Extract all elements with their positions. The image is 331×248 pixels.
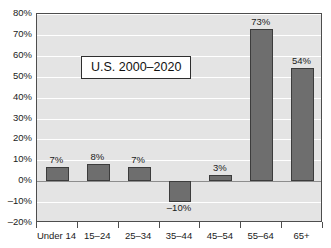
x-axis-tick-label: Under 14 (36, 230, 77, 241)
bar-value-label: 54% (281, 55, 322, 66)
y-axis-tick-label: 70% (0, 28, 32, 39)
bar-value-label: 7% (118, 154, 159, 165)
x-axis-tick-label: 65+ (281, 230, 322, 241)
y-axis-tick-label: –10% (0, 195, 32, 206)
x-axis-tick-label: 55–64 (240, 230, 281, 241)
bar (209, 175, 232, 181)
x-axis-tick-label: 15–24 (77, 230, 118, 241)
bar-chart-figure: 80%70%60%50%40%30%20%10%0%–10%–20% U.S. … (0, 0, 331, 248)
period-callout-label: U.S. 2000–2020 (91, 60, 181, 74)
bar (250, 29, 273, 182)
y-axis-tick-label: 0% (0, 174, 32, 185)
y-axis-tick-label: 40% (0, 91, 32, 102)
x-axis-tick-label: 35–44 (159, 230, 200, 241)
bar (87, 164, 110, 181)
x-axis-tick (240, 222, 241, 228)
gridline (37, 139, 321, 140)
y-axis-tick-label: 10% (0, 153, 32, 164)
x-axis-tick (118, 222, 119, 228)
x-axis-tick (322, 222, 323, 228)
gridline (37, 35, 321, 36)
gridline (37, 119, 321, 120)
chart-title-cropped (0, 0, 331, 5)
period-callout-box: U.S. 2000–2020 (81, 56, 191, 79)
plot-area: U.S. 2000–2020 (36, 13, 322, 222)
y-axis-tick-label: 20% (0, 132, 32, 143)
y-axis-tick-label: 50% (0, 70, 32, 81)
bar-value-label: 73% (240, 16, 281, 27)
bar-value-label: –10% (159, 202, 200, 213)
x-axis-tick (281, 222, 282, 228)
bar (46, 167, 69, 182)
x-axis-tick (36, 222, 37, 228)
bar (169, 181, 192, 202)
gridline (37, 98, 321, 99)
bar-value-label: 3% (199, 162, 240, 173)
x-axis-tick-label: 45–54 (199, 230, 240, 241)
y-axis-tick-label: 30% (0, 112, 32, 123)
y-axis-tick-label: –20% (0, 216, 32, 227)
bar-value-label: 7% (36, 154, 77, 165)
bar (128, 167, 151, 182)
x-axis-tick (77, 222, 78, 228)
bar-value-label: 8% (77, 151, 118, 162)
bar (291, 68, 314, 181)
y-axis-tick-label: 80% (0, 7, 32, 18)
x-axis-tick (199, 222, 200, 228)
x-axis-tick (159, 222, 160, 228)
x-axis-tick-label: 25–34 (118, 230, 159, 241)
y-axis-tick-label: 60% (0, 49, 32, 60)
